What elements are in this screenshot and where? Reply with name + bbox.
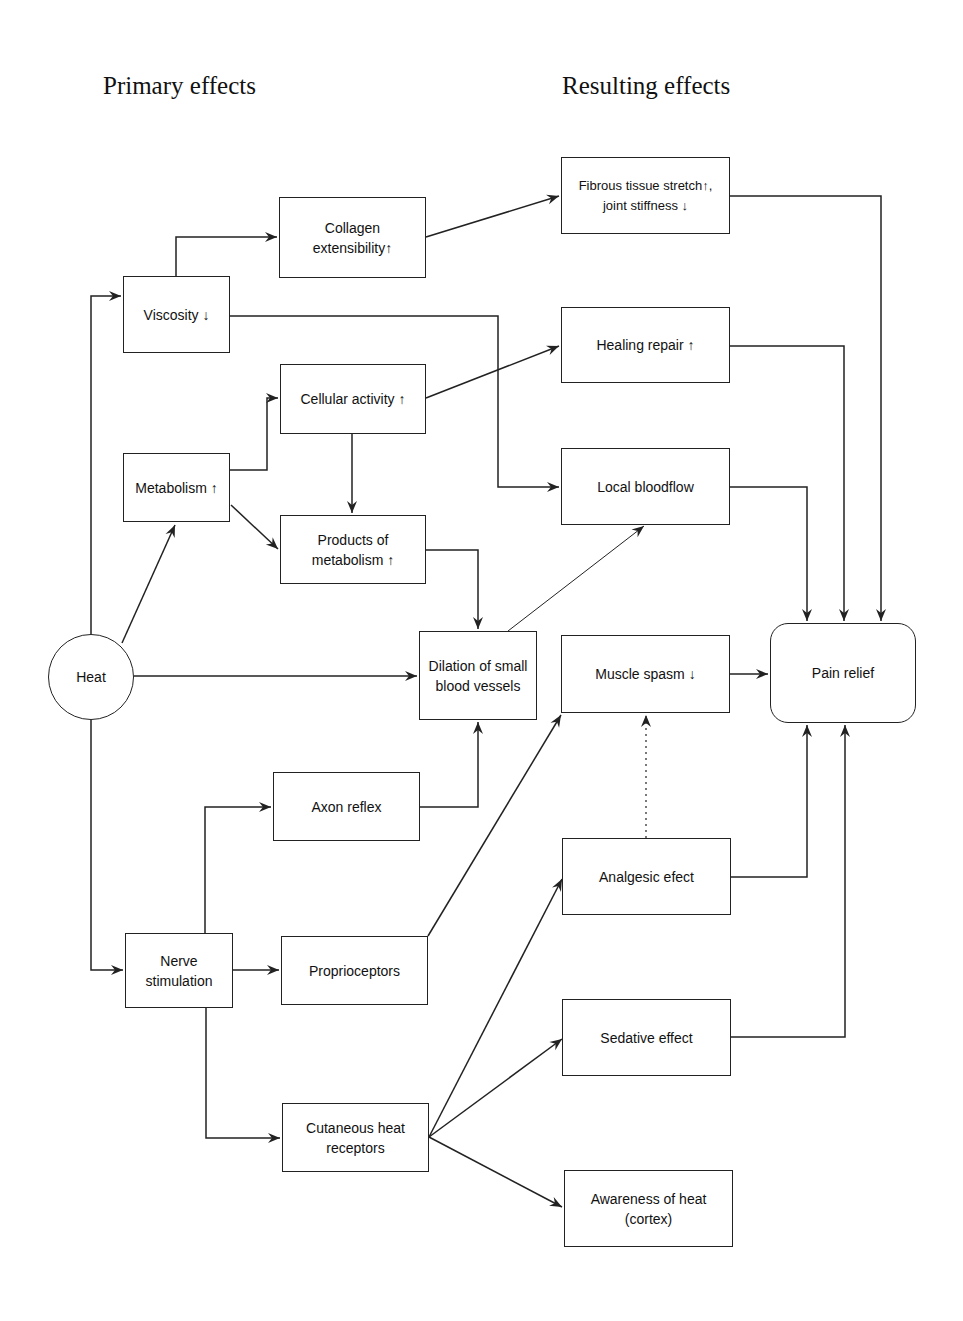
node-collagen-extensibility: Collagen extensibility↑ xyxy=(279,197,426,278)
node-proprioceptors: Proprioceptors xyxy=(281,936,428,1005)
heat-effects-diagram: Primary effects Resulting effects Heat V… xyxy=(0,0,963,1321)
edge-metabolism-cellular xyxy=(230,398,278,470)
edge-cutaneous-sedative xyxy=(429,1039,562,1137)
node-muscle-spasm: Muscle spasm ↓ xyxy=(561,635,730,713)
primary-effects-heading: Primary effects xyxy=(103,72,256,100)
node-dilation-small-blood-vessels: Dilation of small blood vessels xyxy=(419,631,537,720)
edge-nerve-axon xyxy=(205,807,271,933)
edge-axon-dilation xyxy=(420,722,478,807)
edge-bloodflow-pain xyxy=(730,487,807,621)
edge-cutaneous-awareness xyxy=(429,1137,562,1207)
edge-cutaneous-analgesic xyxy=(429,879,562,1137)
edge-healing-pain xyxy=(730,346,844,621)
edge-analgesic-pain xyxy=(731,725,807,877)
edge-products-dilation xyxy=(426,550,478,629)
node-metabolism: Metabolism ↑ xyxy=(123,453,230,522)
edge-sedative-pain xyxy=(731,725,845,1037)
node-awareness-of-heat: Awareness of heat (cortex) xyxy=(564,1170,733,1247)
node-viscosity: Viscosity ↓ xyxy=(123,276,230,353)
node-axon-reflex: Axon reflex xyxy=(273,772,420,841)
resulting-effects-heading: Resulting effects xyxy=(562,72,730,100)
edge-viscosity-collagen xyxy=(176,237,277,276)
edge-fibrous-pain xyxy=(730,196,881,621)
edge-proprio-spasm xyxy=(428,715,561,936)
node-products-of-metabolism: Products of metabolism ↑ xyxy=(280,515,426,584)
edge-heat-nerve xyxy=(91,720,123,970)
node-analgesic-effect: Analgesic efect xyxy=(562,838,731,915)
node-cutaneous-heat-receptors: Cutaneous heat receptors xyxy=(282,1103,429,1172)
node-fibrous-tissue-stretch: Fibrous tissue stretch↑, joint stiffness… xyxy=(561,157,730,234)
edge-cellular-healing xyxy=(426,346,559,398)
node-pain-relief: Pain relief xyxy=(770,623,916,723)
node-sedative-effect: Sedative effect xyxy=(562,999,731,1076)
edge-heat-viscosity xyxy=(91,296,121,634)
node-heat: Heat xyxy=(48,634,134,720)
edge-metabolism-products xyxy=(231,505,278,549)
node-local-bloodflow: Local bloodflow xyxy=(561,448,730,525)
node-healing-repair: Healing repair ↑ xyxy=(561,307,730,383)
edge-collagen-fibrous xyxy=(426,196,559,237)
node-nerve-stimulation: Nerve stimulation xyxy=(125,933,233,1008)
edge-dilation-bloodflow xyxy=(508,526,644,631)
edge-heat-metabolism xyxy=(122,525,175,643)
edge-nerve-cutaneous xyxy=(206,1008,280,1138)
node-cellular-activity: Cellular activity ↑ xyxy=(280,364,426,434)
